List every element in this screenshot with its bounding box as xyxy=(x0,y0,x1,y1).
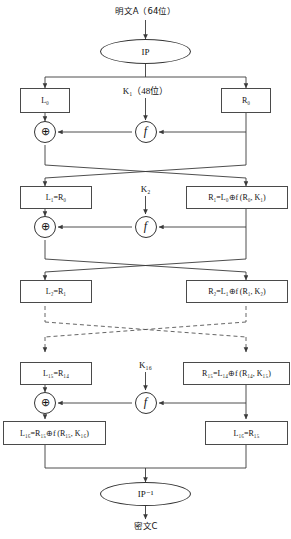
box-r2-label: R₂=L₁⊕f (R₁, K₂) xyxy=(208,287,266,296)
ip-label: IP xyxy=(141,47,149,57)
box-r15[interactable]: R₁₅=L₁₄⊕f (R₁₄, K₁₅) xyxy=(183,362,290,385)
f-function-round16[interactable]: f xyxy=(135,392,157,414)
box-l16-label: L₁₆=R₁₅⊕f (R₁₅, K₁₆) xyxy=(20,429,89,438)
xor-gate-round1[interactable]: ⊕ xyxy=(34,121,56,143)
box-l0[interactable]: L₀ xyxy=(20,88,70,113)
box-r1[interactable]: R₁=L₀⊕f (R₀, K₁) xyxy=(186,186,288,209)
box-l15-label: L₁₅=R₁₄ xyxy=(43,369,69,378)
box-r2[interactable]: R₂=L₁⊕f (R₁, K₂) xyxy=(186,280,288,303)
function-icon: f xyxy=(144,397,147,408)
box-r0[interactable]: R₀ xyxy=(221,88,271,113)
function-icon: f xyxy=(144,126,147,137)
xor-icon: ⊕ xyxy=(41,221,50,232)
box-l0-label: L₀ xyxy=(41,96,49,105)
box-l16[interactable]: L₁₆=R₁₅⊕f (R₁₅, K₁₆) xyxy=(3,421,106,445)
elided-rounds-crossover xyxy=(45,306,246,350)
box-r16-label: L₁₆=R₁₅ xyxy=(234,429,260,438)
xor-gate-round2[interactable]: ⊕ xyxy=(34,216,56,238)
ip-permutation-node[interactable]: IP xyxy=(100,39,191,64)
key-label-k1: K₁（48位） xyxy=(100,86,191,97)
f-function-round2[interactable]: f xyxy=(135,216,157,238)
ip-inverse-label: IP⁻¹ xyxy=(138,489,154,499)
des-flowchart: 明文A（64位） K₁（48位） K₂ K₁₆ 密文C IP IP⁻¹ L₀ R… xyxy=(0,0,291,539)
box-r1-label: R₁=L₀⊕f (R₀, K₁) xyxy=(208,193,266,202)
box-l15[interactable]: L₁₅=R₁₄ xyxy=(20,362,92,385)
connector-lines xyxy=(0,0,291,539)
box-l2-label: L₂=R₁ xyxy=(46,287,66,296)
key-label-k2: K₂ xyxy=(110,184,181,195)
f-function-round1[interactable]: f xyxy=(135,121,157,143)
box-l1-label: L₁=R₀ xyxy=(46,193,66,202)
plaintext-label: 明文A（64位） xyxy=(100,6,191,17)
ciphertext-label: 密文C xyxy=(110,521,181,532)
xor-icon: ⊕ xyxy=(41,397,50,408)
xor-gate-round16[interactable]: ⊕ xyxy=(34,392,56,414)
xor-icon: ⊕ xyxy=(41,126,50,137)
box-r0-label: R₀ xyxy=(242,96,250,105)
box-l2[interactable]: L₂=R₁ xyxy=(20,280,92,303)
box-r15-label: R₁₅=L₁₄⊕f (R₁₄, K₁₅) xyxy=(202,369,271,378)
box-r16[interactable]: L₁₆=R₁₅ xyxy=(205,421,288,445)
ip-inverse-permutation-node[interactable]: IP⁻¹ xyxy=(100,482,191,506)
box-l1[interactable]: L₁=R₀ xyxy=(20,186,92,209)
key-label-k16: K₁₆ xyxy=(110,360,181,371)
function-icon: f xyxy=(144,221,147,232)
